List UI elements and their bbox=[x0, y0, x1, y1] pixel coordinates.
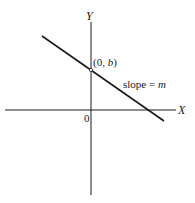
intercept-label: (0, b) bbox=[93, 56, 117, 69]
y-axis-label: Y bbox=[86, 9, 94, 23]
x-axis-label: X bbox=[177, 103, 186, 117]
y-intercept-point bbox=[89, 68, 92, 71]
slope-label: slope = m bbox=[123, 78, 166, 90]
origin-label: 0 bbox=[84, 112, 90, 124]
slope-intercept-diagram: Y X 0 (0, b) slope = m bbox=[0, 0, 195, 203]
